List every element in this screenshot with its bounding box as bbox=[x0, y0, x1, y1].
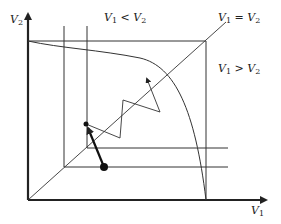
start-point bbox=[100, 163, 108, 171]
target-point bbox=[84, 122, 89, 127]
region-label-v1-less-v2: V1 < V2 bbox=[104, 12, 146, 25]
region-label-v1-greater-v2: V1 > V2 bbox=[218, 63, 260, 76]
phase-diagram bbox=[0, 0, 281, 224]
y-axis-label: V2 bbox=[10, 14, 23, 27]
region-label-v1-equal-v2: V1 = V2 bbox=[218, 12, 260, 25]
x-axis-label: V1 bbox=[251, 205, 264, 218]
zigzag-path bbox=[86, 79, 160, 138]
diagonal-equal-line bbox=[28, 22, 226, 200]
